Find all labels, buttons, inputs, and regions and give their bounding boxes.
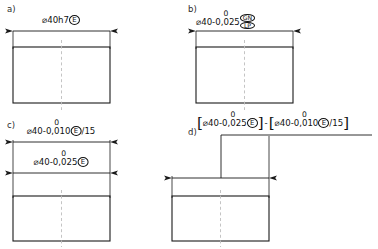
dimension-annotation-c-outer: ⌀400-0,010E/15 bbox=[27, 126, 96, 136]
lower-deviation-d-2: 0,010 bbox=[294, 118, 319, 128]
lower-deviation-c-inner: 0,025 bbox=[53, 157, 78, 167]
envelope-modifier-icon: E bbox=[318, 118, 329, 128]
lower-deviation-b: 0,025 bbox=[215, 17, 240, 27]
two-point-size-modifier-icon: LP bbox=[240, 22, 255, 30]
nominal-size-c-inner: ⌀40 bbox=[34, 157, 50, 167]
dimension-annotation-d: [⌀400-0,025E]-[⌀400-0,010E/15] bbox=[197, 118, 349, 128]
envelope-modifier-icon: E bbox=[247, 118, 258, 128]
nominal-size-d-2: ⌀40 bbox=[275, 118, 291, 128]
upper-deviation-c-inner: 0 bbox=[61, 150, 66, 158]
dimension-annotation-c-inner: ⌀400-0,025E bbox=[34, 157, 89, 167]
upper-deviation-d-1: 0 bbox=[230, 111, 235, 119]
lower-deviation-c-outer: 0,010 bbox=[46, 126, 71, 136]
panel-label-a: a) bbox=[7, 4, 16, 14]
general-size-modifier-icon: GN bbox=[240, 14, 255, 22]
panel-d-geometry bbox=[172, 135, 372, 247]
panel-b-geometry bbox=[196, 31, 293, 110]
nominal-size-b: ⌀40 bbox=[196, 17, 212, 27]
deviation-stack-d-1: 0-0,025 bbox=[219, 119, 247, 128]
dimension-annotation-b: ⌀400-0,025GNLP bbox=[196, 15, 255, 30]
lower-deviation-d-1: 0,025 bbox=[222, 118, 247, 128]
deviation-stack-c-outer: 0-0,010 bbox=[43, 127, 71, 136]
upper-deviation-b: 0 bbox=[224, 10, 229, 18]
size-designation-a: ⌀40h7 bbox=[42, 15, 69, 25]
envelope-modifier-icon: E bbox=[70, 126, 81, 136]
deviation-stack-d-2: 0-0,010 bbox=[291, 119, 319, 128]
length-suffix-d-2: /15 bbox=[329, 118, 343, 128]
deviation-stack-c-inner: 0-0,025 bbox=[50, 158, 78, 167]
nominal-size-c-outer: ⌀40 bbox=[27, 126, 43, 136]
deviation-stack-b: 0-0,025 bbox=[212, 18, 240, 27]
panel-label-c: c) bbox=[7, 120, 15, 130]
bracket-close-2: ] bbox=[343, 118, 349, 128]
length-suffix-c-outer: /15 bbox=[81, 126, 95, 136]
panel-label-d: d) bbox=[188, 127, 197, 137]
dimension-annotation-a: ⌀40h7E bbox=[42, 15, 80, 25]
envelope-modifier-icon: E bbox=[77, 157, 88, 167]
upper-deviation-c-outer: 0 bbox=[54, 119, 59, 127]
panel-label-b: b) bbox=[188, 4, 197, 14]
upper-deviation-d-2: 0 bbox=[302, 111, 307, 119]
panel-a-geometry bbox=[13, 31, 110, 110]
modifier-stack-b: GNLP bbox=[240, 15, 255, 30]
nominal-size-d-1: ⌀40 bbox=[203, 118, 219, 128]
envelope-modifier-icon: E bbox=[69, 15, 80, 25]
